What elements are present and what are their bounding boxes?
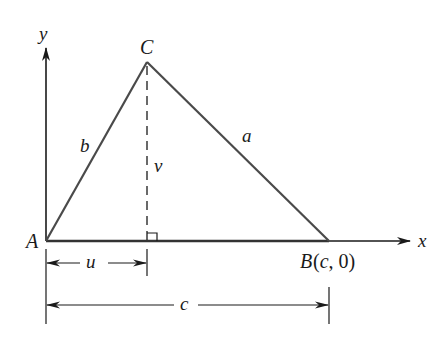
side-b-label: b	[80, 135, 90, 156]
altitude-label: v	[154, 155, 163, 176]
vertex-c-label: C	[140, 36, 154, 58]
vertex-b-coords: (c, 0)	[313, 250, 355, 273]
vertex-b-label: B	[300, 250, 312, 272]
side-b	[46, 62, 147, 241]
dimension-c-label: c	[180, 293, 189, 314]
triangle-diagram: y x A C B (c, 0) b a v u c	[0, 0, 436, 352]
y-axis-label: y	[37, 23, 48, 44]
side-a-label: a	[242, 125, 252, 146]
vertex-a-label: A	[24, 230, 39, 252]
dimension-u-label: u	[86, 251, 96, 272]
x-axis-label: x	[417, 230, 427, 251]
side-a	[147, 62, 329, 241]
